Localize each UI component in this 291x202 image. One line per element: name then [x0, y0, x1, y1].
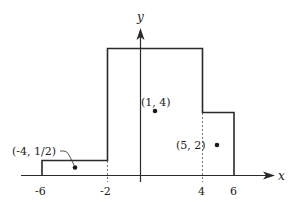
tick-label-minus-6: -6: [35, 185, 46, 198]
point-label-1-4: (1, 4): [141, 96, 171, 109]
step-function-diagram: x y -6 -2 4 6 (-4, 1/2) (1, 4) (5, 2): [0, 0, 291, 202]
tick-label-minus-2: -2: [100, 185, 111, 198]
point-label-minus4-half: (-4, 1/2): [12, 145, 56, 158]
point-marker-1-4: [153, 109, 158, 114]
leader-line: [60, 151, 74, 165]
point-marker-minus4-half: [73, 165, 78, 170]
point-label-5-2: (5, 2): [176, 139, 206, 152]
step-function-outline: [42, 49, 234, 176]
x-axis-label: x: [278, 169, 285, 183]
y-axis-label: y: [136, 10, 144, 24]
point-marker-5-2: [215, 143, 220, 148]
tick-label-4: 4: [198, 185, 205, 198]
tick-label-6: 6: [230, 185, 237, 198]
